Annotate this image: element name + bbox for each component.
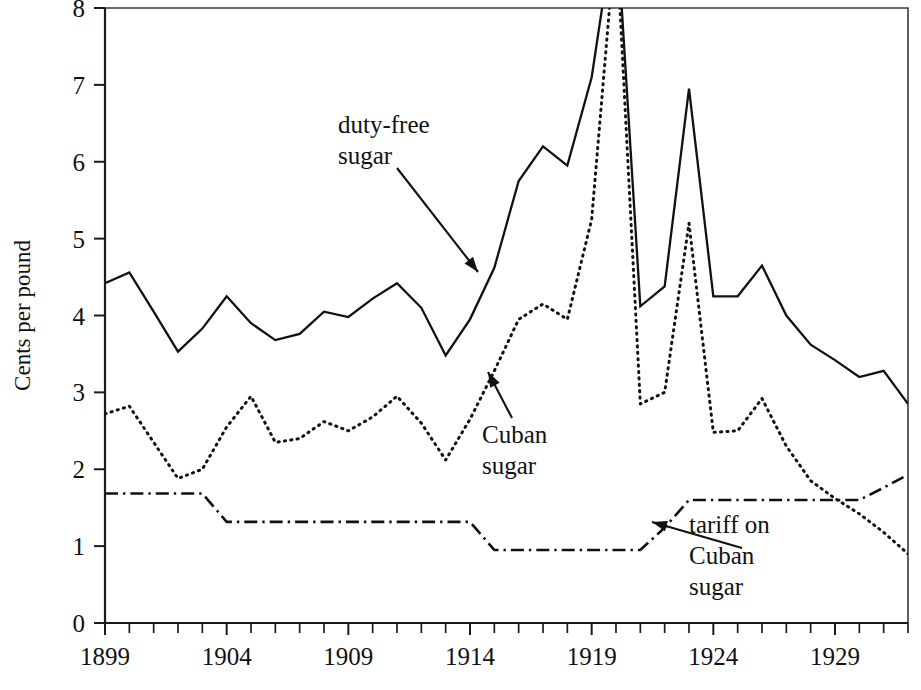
- y-axis-ticks: [94, 8, 105, 623]
- sugar-price-line-chart: 012345678 1899190419091914191919241929 C…: [0, 0, 921, 690]
- x-axis-tick-labels: 1899190419091914191919241929: [80, 643, 860, 670]
- annotation-arrow-head: [652, 521, 668, 531]
- series-solid: [105, 0, 908, 404]
- annotation-label: sugar: [689, 573, 744, 600]
- y-tick-label: 1: [73, 533, 86, 560]
- annotation-label: Cuban: [689, 542, 755, 569]
- annotation-label: duty-free: [338, 111, 430, 138]
- annotation-cuban: Cubansugar: [482, 372, 548, 479]
- annotation-arrow-head: [465, 257, 478, 272]
- y-tick-label: 6: [73, 149, 86, 176]
- annotation-label: tariff on: [689, 511, 770, 538]
- y-tick-label: 8: [73, 0, 86, 22]
- y-tick-label: 4: [73, 303, 86, 330]
- y-tick-label: 3: [73, 379, 86, 406]
- annotation-arrow-head: [488, 372, 500, 388]
- annotation-tariff: tariff onCubansugar: [652, 511, 770, 600]
- x-axis-ticks: [105, 623, 908, 635]
- x-tick-label: 1914: [445, 643, 496, 670]
- annotation-layer: duty-freesugarCubansugartariff onCubansu…: [338, 111, 770, 600]
- annotation-duty-free: duty-freesugar: [338, 111, 478, 272]
- y-axis-title: Cents per pound: [10, 240, 35, 391]
- annotation-label: sugar: [338, 142, 393, 169]
- x-tick-label: 1909: [323, 643, 373, 670]
- chart-container: 012345678 1899190419091914191919241929 C…: [0, 0, 921, 690]
- x-tick-label: 1919: [567, 643, 617, 670]
- annotation-arrow-line: [397, 168, 478, 272]
- x-tick-label: 1899: [80, 643, 130, 670]
- annotation-label: Cuban: [482, 421, 548, 448]
- y-axis-title-text: Cents per pound: [10, 240, 35, 391]
- x-tick-label: 1929: [810, 643, 860, 670]
- series-dashdot: [105, 475, 908, 550]
- x-tick-label: 1904: [202, 643, 253, 670]
- y-axis-tick-labels: 012345678: [73, 0, 86, 637]
- y-tick-label: 2: [73, 456, 86, 483]
- x-tick-label: 1924: [688, 643, 739, 670]
- annotation-label: sugar: [482, 452, 537, 479]
- y-tick-label: 7: [73, 72, 86, 99]
- y-tick-label: 0: [73, 610, 86, 637]
- y-tick-label: 5: [73, 226, 86, 253]
